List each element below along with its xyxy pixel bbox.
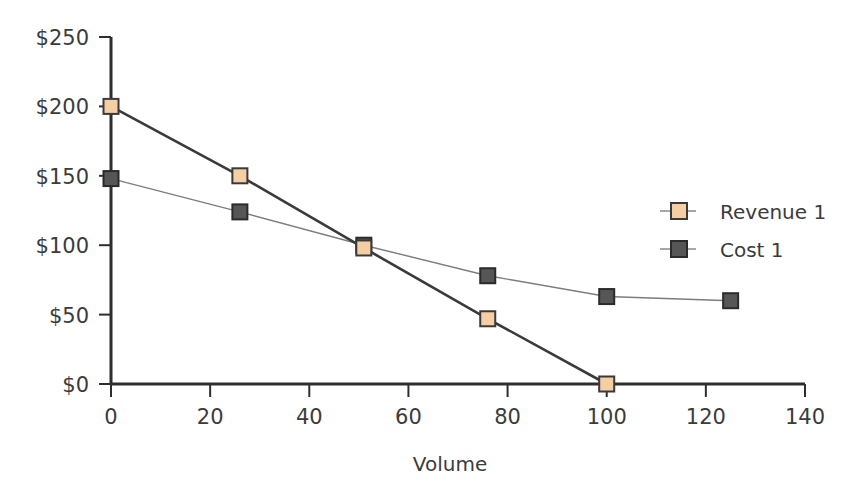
y-tick-label: $250 (36, 26, 89, 50)
data-series-layer (104, 99, 739, 392)
x-tick-label: 0 (104, 405, 117, 429)
x-tick-label: 100 (587, 405, 627, 429)
data-point-marker (104, 99, 119, 114)
legend-item: Revenue 1 (660, 200, 826, 224)
data-point-marker (723, 293, 738, 308)
y-tick-label: $100 (36, 234, 89, 258)
line-chart-plot: $0$50$100$150$200$250 020406080100120140… (0, 0, 855, 495)
legend-swatch (671, 241, 687, 257)
series-line (111, 179, 731, 301)
legend-label: Revenue 1 (720, 200, 826, 224)
series-cost-1 (104, 171, 739, 308)
y-tick-label: $150 (36, 165, 89, 189)
data-point-marker (232, 204, 247, 219)
chart-container: $0$50$100$150$200$250 020406080100120140… (0, 0, 855, 495)
x-axis-title: Volume (413, 452, 487, 476)
y-tick-label: $50 (49, 304, 89, 328)
x-tick-label: 120 (686, 405, 726, 429)
data-point-marker (599, 377, 614, 392)
x-tick-label: 60 (395, 405, 422, 429)
y-tick-label: $0 (62, 373, 89, 397)
chart-legend: Revenue 1Cost 1 (660, 200, 826, 262)
y-tick-label: $200 (36, 95, 89, 119)
x-tick-label: 40 (296, 405, 323, 429)
data-point-marker (104, 171, 119, 186)
legend-label: Cost 1 (720, 238, 784, 262)
x-tick-label: 20 (197, 405, 224, 429)
data-point-marker (599, 289, 614, 304)
y-axis: $0$50$100$150$200$250 (36, 26, 111, 397)
series-revenue-1 (104, 99, 615, 392)
legend-item: Cost 1 (660, 238, 784, 262)
data-point-marker (480, 268, 495, 283)
data-point-marker (356, 240, 371, 255)
x-tick-label: 140 (785, 405, 825, 429)
legend-swatch (671, 203, 687, 219)
x-axis: 020406080100120140 (104, 384, 825, 429)
data-point-marker (232, 168, 247, 183)
x-tick-label: 80 (494, 405, 521, 429)
data-point-marker (480, 311, 495, 326)
